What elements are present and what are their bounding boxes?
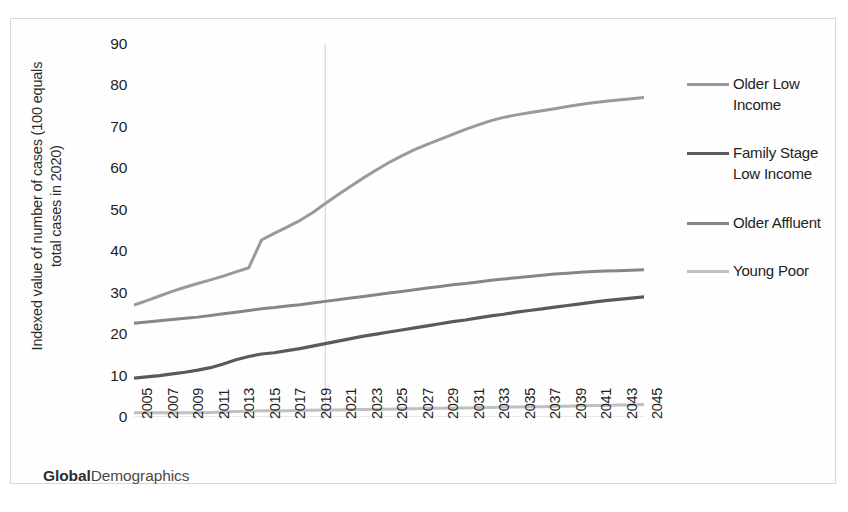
legend-label: Young Poor — [733, 261, 809, 282]
series-line — [134, 297, 644, 378]
legend-label: Older Affluent — [733, 213, 821, 234]
brand-label: GlobalDemographics — [43, 467, 189, 485]
x-tick-label: 2005 — [139, 388, 155, 419]
legend-label: Family Stage Low Income — [733, 143, 845, 184]
y-tick-label: 80 — [93, 76, 127, 94]
x-tick-label: 2035 — [522, 388, 538, 419]
y-tick-label: 50 — [93, 201, 127, 219]
chart-screenshot: Indexed value of number of cases (100 eq… — [0, 0, 848, 512]
x-tick-label: 2011 — [216, 389, 232, 419]
plot-area — [134, 44, 644, 417]
x-tick-label: 2043 — [624, 388, 640, 419]
chart-frame: Indexed value of number of cases (100 eq… — [10, 18, 836, 484]
legend-swatch-icon — [687, 83, 729, 86]
y-axis-tick-labels: 9080706050403020100 — [87, 44, 127, 417]
x-tick-label: 2017 — [292, 388, 308, 419]
legend-item[interactable]: Young Poor — [687, 261, 847, 282]
y-tick-label: 70 — [93, 118, 127, 136]
x-tick-label: 2027 — [420, 388, 436, 419]
y-tick-label: 40 — [93, 242, 127, 260]
legend-item[interactable]: Family Stage Low Income — [687, 143, 847, 184]
y-tick-label: 10 — [93, 367, 127, 385]
x-tick-label: 2009 — [190, 388, 206, 419]
x-tick-label: 2033 — [496, 388, 512, 419]
y-tick-label: 20 — [93, 325, 127, 343]
brand-strong: Global — [43, 467, 91, 484]
chart-legend: Older Low IncomeFamily Stage Low IncomeO… — [687, 74, 847, 310]
y-tick-label: 30 — [93, 284, 127, 302]
legend-swatch-icon — [687, 222, 729, 225]
x-tick-label: 2015 — [267, 388, 283, 419]
series-line — [134, 405, 644, 413]
x-tick-label: 2019 — [318, 388, 334, 419]
y-tick-label: 90 — [93, 35, 127, 53]
legend-item[interactable]: Older Low Income — [687, 74, 847, 115]
x-tick-label: 2037 — [547, 388, 563, 419]
x-tick-label: 2041 — [598, 388, 614, 419]
legend-swatch-icon — [687, 270, 729, 273]
plot-svg — [134, 44, 644, 417]
x-axis-tick-labels: 2005200720092011201320152017201920212023… — [134, 419, 644, 475]
legend-item[interactable]: Older Affluent — [687, 213, 847, 234]
x-tick-label: 2029 — [445, 388, 461, 419]
x-tick-label: 2045 — [649, 388, 665, 419]
y-tick-label: 60 — [93, 159, 127, 177]
x-tick-label: 2031 — [471, 388, 487, 419]
x-tick-label: 2025 — [394, 388, 410, 419]
x-tick-label: 2039 — [573, 388, 589, 419]
y-tick-label: 0 — [93, 408, 127, 426]
legend-label: Older Low Income — [733, 74, 845, 115]
x-tick-label: 2021 — [343, 388, 359, 419]
x-tick-label: 2007 — [165, 388, 181, 419]
legend-swatch-icon — [687, 152, 729, 155]
x-tick-label: 2023 — [369, 388, 385, 419]
series-line — [134, 270, 644, 323]
x-tick-label: 2013 — [241, 388, 257, 419]
y-axis-title: Indexed value of number of cases (100 eq… — [28, 26, 66, 386]
brand-rest: Demographics — [91, 467, 190, 484]
